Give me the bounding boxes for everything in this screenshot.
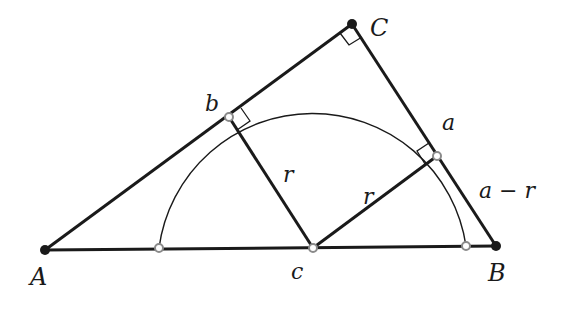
side-AC: [45, 24, 352, 250]
radius-ca: [313, 156, 437, 248]
point-c: [309, 244, 317, 252]
label-a: a: [442, 110, 455, 135]
side-AB: [45, 246, 496, 250]
point-B: [491, 241, 501, 251]
point-arc-right: [462, 242, 470, 250]
geometry-diagram: A B C b a c r r a − r: [0, 0, 562, 309]
label-r-right: r: [363, 184, 375, 209]
radius-cb: [229, 117, 313, 248]
label-C: C: [370, 14, 388, 42]
label-r-left: r: [283, 162, 295, 187]
label-a-minus-r: a − r: [479, 178, 537, 203]
label-b: b: [205, 91, 219, 116]
right-angle-a: [417, 143, 429, 164]
point-b: [225, 113, 233, 121]
label-c: c: [291, 259, 303, 284]
side-BC: [352, 24, 496, 246]
label-B: B: [487, 259, 506, 287]
label-A: A: [28, 263, 47, 291]
right-angle-b: [237, 108, 250, 130]
point-arc-left: [155, 244, 163, 252]
point-A: [40, 245, 50, 255]
point-C: [347, 19, 357, 29]
point-a: [433, 152, 441, 160]
